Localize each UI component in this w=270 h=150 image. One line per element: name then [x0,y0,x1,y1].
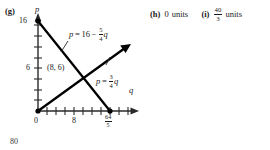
graph-panel-g: (g) [0,0,146,150]
fraction-5-4: 54 [99,27,103,42]
fraction-64-5: 64 5 [105,114,112,129]
answer-h: (h)0units [150,10,188,19]
supply-variable: q [114,76,118,86]
fraction-40-3: 403 [214,6,222,22]
fraction-3-4: 34 [109,74,113,89]
demand-leader-line [61,41,68,52]
part-label-g: (g) [5,7,15,16]
x-axis [38,108,139,115]
y-axis-label: p [35,5,39,14]
answer-h-unit: units [172,9,189,19]
answer-i-unit: units [225,9,242,19]
y-axis [35,13,42,111]
origin-label: 0 [34,117,38,125]
x-tick-label-64-over-5: 64 5 [104,114,112,129]
part-label-h: (h) [150,9,160,19]
page-number: 80 [10,138,18,146]
part-label-i: (i) [201,9,209,19]
supply-equation-label: p = 34q [96,74,118,89]
answer-i: (i)403units [201,6,242,22]
answers-row: (h)0units (i)403units [150,6,270,22]
demand-variable: q [104,29,108,39]
y-tick-label-16: 16 [19,17,27,25]
answer-h-value: 0 [164,9,168,19]
x-axis-label: q [129,86,133,95]
intersection-point-label: (8, 6) [47,64,64,72]
demand-intercept: 16 [81,29,90,39]
x-tick-label-8: 8 [72,117,76,125]
y-tick-label-6: 6 [26,64,30,72]
demand-equation-label: p = 16 − 54q [69,27,108,42]
